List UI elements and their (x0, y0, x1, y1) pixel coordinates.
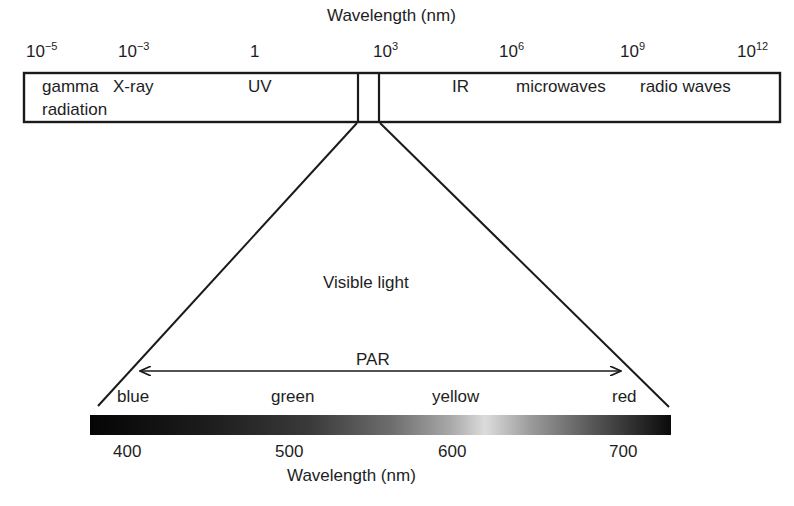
visible-light-label: Visible light (323, 273, 409, 293)
band-radio: radio waves (640, 77, 731, 97)
visible-gradient-bar (90, 415, 671, 435)
tick-1e-3: 10−3 (118, 42, 149, 63)
zoom-line-left (98, 123, 357, 406)
color-green: green (271, 387, 314, 407)
tick-1: 1 (250, 42, 259, 63)
zoom-line-right (380, 123, 669, 407)
tick-700: 700 (609, 442, 637, 462)
band-ir: IR (452, 77, 469, 97)
tick-400: 400 (113, 442, 141, 462)
color-blue: blue (117, 387, 149, 407)
tick-1e12: 1012 (737, 42, 768, 63)
color-yellow: yellow (432, 387, 479, 407)
tick-500: 500 (275, 442, 303, 462)
par-label: PAR (356, 350, 390, 370)
bottom-axis-title: Wavelength (nm) (287, 466, 416, 486)
band-xray: X-ray (113, 77, 154, 97)
tick-600: 600 (438, 442, 466, 462)
band-microwaves: microwaves (516, 77, 606, 97)
tick-1e9: 109 (620, 42, 645, 63)
tick-1e-5: 10−5 (26, 42, 57, 63)
tick-1e6: 106 (499, 42, 524, 63)
top-axis-title: Wavelength (nm) (327, 6, 456, 26)
band-gamma-radiation: radiation (42, 100, 107, 120)
color-red: red (612, 387, 637, 407)
band-gamma: gamma (42, 77, 99, 97)
tick-1e3: 103 (373, 42, 398, 63)
band-uv: UV (248, 77, 272, 97)
